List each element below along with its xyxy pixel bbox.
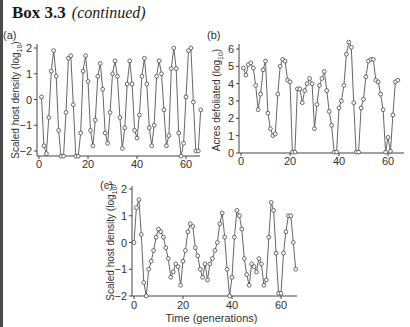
y-tick-label: 2 xyxy=(121,183,127,195)
data-point-marker xyxy=(111,72,115,76)
y-axis-label: Scaled host density (log10) xyxy=(105,183,118,300)
data-point-marker xyxy=(91,144,95,148)
data-point-marker xyxy=(359,106,363,110)
data-point-marker xyxy=(310,82,314,86)
data-point-marker xyxy=(352,101,356,105)
data-point-marker xyxy=(150,144,154,148)
y-axis-label: Scaled host density (log10) xyxy=(10,41,23,158)
data-point-marker xyxy=(132,241,136,245)
data-point-marker xyxy=(256,108,260,112)
data-point-marker xyxy=(160,72,164,76)
y-tick-label: 2 xyxy=(228,112,234,124)
data-point-marker xyxy=(342,84,346,88)
data-point-marker xyxy=(335,150,339,154)
data-point-marker xyxy=(305,82,309,86)
data-point-marker xyxy=(196,149,200,153)
data-point-marker xyxy=(143,56,147,60)
data-point-marker xyxy=(71,103,75,107)
panel-label: (b) xyxy=(207,29,220,41)
y-tick-label: 1 xyxy=(228,130,234,142)
data-point-marker xyxy=(106,141,110,145)
data-point-marker xyxy=(249,61,253,65)
data-point-marker xyxy=(167,134,171,138)
data-point-marker xyxy=(327,110,331,114)
data-point-marker xyxy=(135,206,139,210)
data-point-marker xyxy=(182,141,186,145)
data-point-marker xyxy=(371,58,375,62)
data-point-marker xyxy=(101,87,105,91)
x-tick-label: 0 xyxy=(131,299,137,311)
data-point-marker xyxy=(138,113,142,117)
data-point-marker xyxy=(177,131,181,135)
y-tick-label: 2 xyxy=(26,42,32,54)
data-point-marker xyxy=(113,59,117,63)
data-point-marker xyxy=(81,69,85,73)
data-point-marker xyxy=(40,95,44,99)
data-point-marker xyxy=(228,294,232,298)
data-point-marker xyxy=(282,251,286,255)
data-point-marker xyxy=(242,257,246,261)
panel-label: (a) xyxy=(3,29,16,41)
data-point-marker xyxy=(93,118,97,122)
data-point-marker xyxy=(255,270,259,274)
data-point-marker xyxy=(162,235,166,239)
data-point-marker xyxy=(308,77,312,81)
y-tick-label: 0 xyxy=(26,94,32,106)
data-point-marker xyxy=(147,267,151,271)
data-point-marker xyxy=(322,70,326,74)
data-point-marker xyxy=(225,267,229,271)
data-point-marker xyxy=(179,283,183,287)
x-tick-label: 60 xyxy=(180,158,192,170)
data-point-marker xyxy=(262,283,266,287)
data-point-marker xyxy=(349,45,353,49)
data-point-marker xyxy=(140,74,144,78)
data-point-marker xyxy=(238,214,242,218)
data-point-marker xyxy=(152,249,156,253)
data-point-marker xyxy=(165,144,169,148)
data-point-marker xyxy=(169,275,173,279)
data-point-marker xyxy=(278,64,282,68)
data-point-marker xyxy=(149,259,153,263)
data-point-marker xyxy=(103,131,107,135)
data-point-marker xyxy=(57,129,61,133)
data-point-marker xyxy=(89,129,93,133)
data-point-marker xyxy=(298,87,302,91)
data-point-marker xyxy=(159,230,163,234)
data-point-marker xyxy=(186,230,190,234)
data-point-marker xyxy=(174,67,178,71)
data-point-marker xyxy=(171,270,175,274)
data-point-marker xyxy=(293,150,297,154)
data-point-marker xyxy=(240,227,244,231)
data-point-marker xyxy=(260,262,264,266)
chart-panel-a: (a)−2−10120204060Scaled host density (lo… xyxy=(3,29,203,170)
y-tick-label: 1 xyxy=(121,210,127,222)
data-point-marker xyxy=(261,68,265,72)
data-point-marker xyxy=(269,127,273,131)
data-point-marker xyxy=(199,108,203,112)
data-point-marker xyxy=(139,233,143,237)
data-point-marker xyxy=(154,235,158,239)
data-point-marker xyxy=(215,241,219,245)
data-point-marker xyxy=(315,103,319,107)
y-tick-label: 4 xyxy=(228,78,234,90)
data-point-marker xyxy=(130,82,134,86)
data-point-marker xyxy=(145,82,149,86)
data-point-marker xyxy=(379,92,383,96)
data-point-marker xyxy=(325,89,329,93)
data-point-marker xyxy=(45,152,49,156)
data-point-marker xyxy=(172,46,176,50)
data-point-marker xyxy=(54,74,58,78)
data-point-marker xyxy=(152,123,156,127)
data-point-marker xyxy=(116,74,120,78)
data-point-marker xyxy=(218,222,222,226)
data-point-marker xyxy=(284,230,288,234)
data-point-marker xyxy=(264,278,268,282)
data-point-marker xyxy=(252,265,256,269)
y-tick-label: −2 xyxy=(19,145,32,157)
data-point-marker xyxy=(244,73,248,77)
data-point-marker xyxy=(220,211,224,215)
data-point-marker xyxy=(208,262,212,266)
data-point-marker xyxy=(300,101,304,105)
y-tick-label: −2 xyxy=(114,290,127,302)
data-point-marker xyxy=(164,246,168,250)
